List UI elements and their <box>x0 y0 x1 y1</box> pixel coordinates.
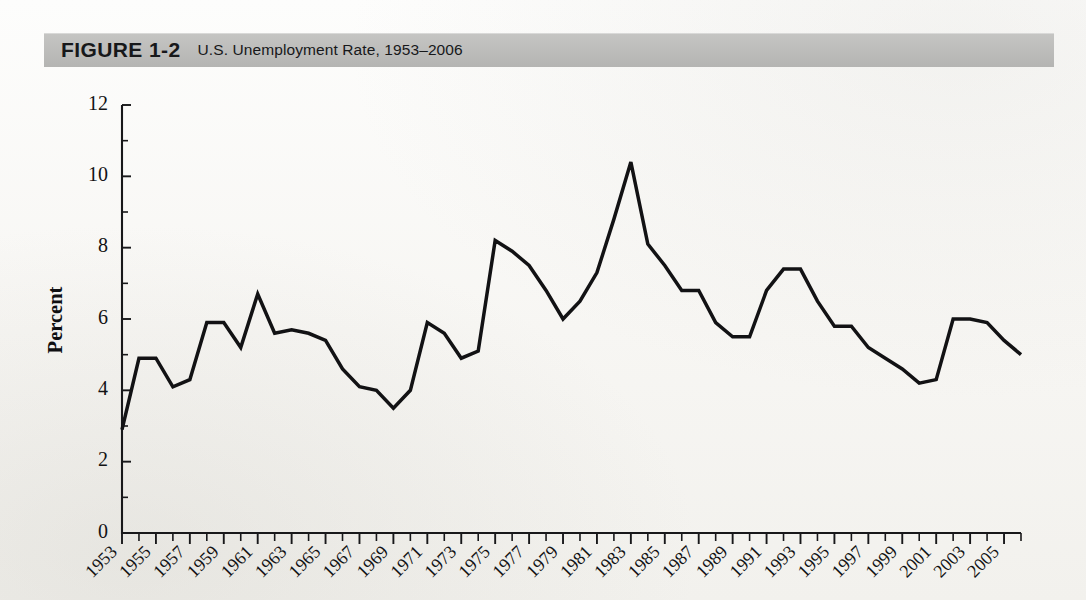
x-tick-label: 1979 <box>522 542 562 582</box>
x-tick-label: 2001 <box>895 542 935 582</box>
x-tick-label: 1957 <box>149 542 189 582</box>
unemployment-rate-line <box>122 162 1021 430</box>
x-tick-label: 1975 <box>454 542 494 582</box>
y-axis-title: Percent <box>44 286 66 353</box>
y-axis-group: 024681012 <box>88 92 131 542</box>
axis-frame <box>122 105 1021 533</box>
x-tick-label: 1963 <box>251 542 291 582</box>
x-axis-group: 1953195519571959196119631965196719691971… <box>81 533 1021 581</box>
chart-container: 024681012 195319551957195919611963196519… <box>0 0 1086 600</box>
x-tick-label: 1983 <box>590 542 630 582</box>
x-tick-label: 1961 <box>217 542 257 582</box>
y-tick-label: 2 <box>98 448 108 470</box>
x-tick-label: 1991 <box>726 542 766 582</box>
x-tick-label: 1955 <box>115 542 155 582</box>
x-tick-label: 2003 <box>929 542 969 582</box>
x-tick-label: 1973 <box>420 542 460 582</box>
x-tick-label: 1965 <box>285 542 325 582</box>
x-tick-label: 1977 <box>488 542 528 582</box>
x-tick-label: 1989 <box>692 542 732 582</box>
x-tick-label: 1971 <box>387 542 427 582</box>
y-tick-label: 10 <box>88 163 108 185</box>
y-tick-label: 4 <box>98 377 108 399</box>
x-tick-label: 1985 <box>624 542 664 582</box>
x-tick-label: 1987 <box>658 542 698 582</box>
y-tick-label: 8 <box>98 234 108 256</box>
x-tick-label: 1953 <box>81 542 121 582</box>
x-tick-label: 1997 <box>828 542 868 582</box>
x-tick-label: 1981 <box>556 542 596 582</box>
x-tick-label: 1993 <box>760 542 800 582</box>
line-chart-svg: 024681012 195319551957195919611963196519… <box>0 0 1086 600</box>
y-tick-label: 6 <box>98 306 108 328</box>
y-tick-label: 0 <box>98 520 108 542</box>
x-tick-label: 1999 <box>861 542 901 582</box>
x-tick-label: 2005 <box>963 542 1003 582</box>
x-tick-label: 1959 <box>183 542 223 582</box>
y-tick-label: 12 <box>88 92 108 114</box>
x-tick-label: 1969 <box>353 542 393 582</box>
x-tick-label: 1967 <box>319 542 359 582</box>
x-tick-label: 1995 <box>794 542 834 582</box>
